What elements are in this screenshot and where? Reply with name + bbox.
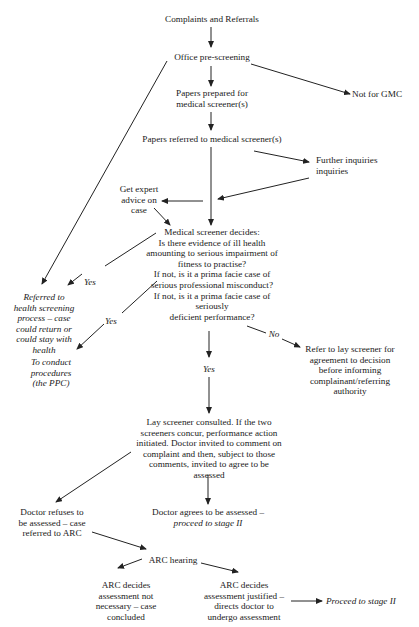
refuses-line-2: be assessed – case: [12, 518, 92, 529]
node-get-expert-advice-line-2: advice on: [114, 195, 164, 206]
screener-line-9: deficient performance?: [144, 312, 280, 323]
screener-line-6: serious professional misconduct?: [144, 280, 280, 291]
ppc-line-2: procedures: [26, 368, 76, 379]
lay-refer-line-3: before informing: [302, 365, 398, 376]
node-complaints-and-referrals: Complaints and Referrals: [160, 14, 264, 25]
arc-just-line-4: undergo assessment: [202, 612, 286, 623]
arc-not-line-4: concluded: [94, 612, 158, 623]
arc-just-line-3: directs doctor to: [202, 601, 286, 612]
arc-just-line-2: assessment justified –: [202, 591, 286, 602]
node-health-screening: Referred to health screening process – c…: [10, 292, 78, 356]
arc-not-line-2: assessment not: [94, 591, 158, 602]
health-line-4: could return or: [10, 324, 78, 335]
node-further-inquiries: Further inquiries inquiries: [316, 155, 386, 176]
node-get-expert-advice-line-3: case: [114, 205, 164, 216]
node-office-pre-screening: Office pre-screening: [170, 52, 254, 63]
edge-label-no: No: [266, 329, 282, 340]
screener-line-1: Medical screener decides:: [144, 227, 280, 238]
agrees-line-2: proceed to stage II: [148, 518, 268, 529]
lay-consulted-line-5: comments, invited to agree to be: [136, 459, 282, 470]
health-line-1: Referred to: [10, 292, 78, 303]
health-line-3: process – case: [10, 313, 78, 324]
node-doctor-agrees: Doctor agrees to be assessed – proceed t…: [148, 507, 268, 528]
node-doctor-refuses: Doctor refuses to be assessed – case ref…: [12, 507, 92, 539]
node-papers-referred: Papers referred to medical screener(s): [138, 134, 286, 145]
lay-refer-line-5: authority: [302, 386, 398, 397]
lay-consulted-line-2: screeners concur, performance action: [136, 428, 282, 439]
screener-line-5: If not, is it a prima facie case of: [144, 269, 280, 280]
health-line-2: health screening: [10, 303, 78, 314]
node-papers-prepared: Papers prepared for medical screener(s): [170, 88, 254, 109]
screener-line-8: seriously: [144, 301, 280, 312]
node-arc-not-necessary: ARC decides assessment not necessary – c…: [94, 580, 158, 622]
health-line-5: could stay with: [10, 334, 78, 345]
node-ppc-procedures: To conduct procedures (the PPC): [26, 357, 76, 389]
lay-consulted-line-4: complaint and then, subject to those: [136, 449, 282, 460]
node-papers-prepared-line-1: Papers prepared for: [170, 88, 254, 99]
refuses-line-1: Doctor refuses to: [12, 507, 92, 518]
health-line-6: health: [10, 345, 78, 356]
edge-label-yes-health: Yes: [82, 277, 98, 288]
arc-not-line-3: necessary – case: [94, 601, 158, 612]
node-not-for-gmc: Not for GMC: [352, 89, 410, 100]
lay-consulted-line-6: assessed: [136, 470, 282, 481]
ppc-line-3: (the PPC): [26, 378, 76, 389]
edge-label-yes-ppc: Yes: [103, 316, 119, 327]
node-further-inquiries-line-2: inquiries: [316, 166, 386, 177]
node-get-expert-advice-line-1: Get expert: [114, 184, 164, 195]
node-lay-screener-consulted: Lay screener consulted. If the two scree…: [136, 417, 282, 481]
lay-consulted-line-1: Lay screener consulted. If the two: [136, 417, 282, 428]
screener-line-3: amounting to serious impairment of: [144, 248, 280, 259]
node-medical-screener-decides: Medical screener decides: Is there evide…: [144, 227, 280, 322]
edge-label-yes-down: Yes: [201, 364, 217, 375]
arc-not-line-1: ARC decides: [94, 580, 158, 591]
node-papers-prepared-line-2: medical screener(s): [170, 99, 254, 110]
node-arc-hearing: ARC hearing: [146, 555, 200, 566]
node-further-inquiries-line-1: Further inquiries: [316, 155, 386, 166]
lay-refer-line-2: agreement to decision: [302, 355, 398, 366]
screener-line-4: fitness to practise?: [144, 259, 280, 270]
lay-consulted-line-3: initiated. Doctor invited to comment on: [136, 438, 282, 449]
arc-just-line-1: ARC decides: [202, 580, 286, 591]
ppc-line-1: To conduct: [26, 357, 76, 368]
agrees-line-1: Doctor agrees to be assessed –: [148, 507, 268, 518]
refuses-line-3: referred to ARC: [12, 528, 92, 539]
lay-refer-line-4: complainant/referring: [302, 376, 398, 387]
node-get-expert-advice: Get expert advice on case: [114, 184, 164, 216]
node-arc-justified: ARC decides assessment justified – direc…: [202, 580, 286, 622]
node-proceed-stage-ii: Proceed to stage II: [326, 596, 406, 607]
lay-refer-line-1: Refer to lay screener for: [302, 344, 398, 355]
screener-line-7: If not, is it a prima facie case of: [144, 291, 280, 302]
node-refer-lay-screener: Refer to lay screener for agreement to d…: [302, 344, 398, 397]
screener-line-2: Is there evidence of ill health: [144, 238, 280, 249]
